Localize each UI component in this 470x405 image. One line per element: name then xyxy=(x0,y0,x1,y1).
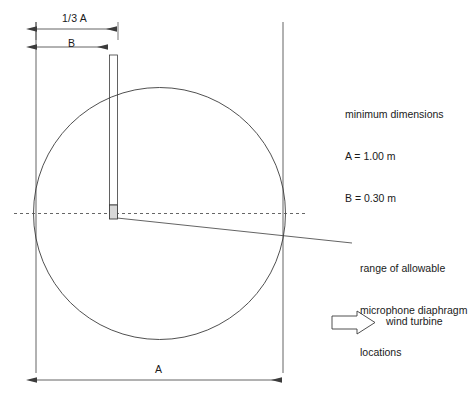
board-outline xyxy=(36,22,283,373)
wind-turbine-legend-label: wind turbine xyxy=(386,314,443,328)
dimension-label-b: B xyxy=(68,36,75,50)
dimension-label-a: A xyxy=(155,362,162,376)
diagram-root: 1/3 A B A minimum dimensions A = 1.00 m … xyxy=(0,0,470,405)
note-heading: minimum dimensions xyxy=(345,107,444,121)
minimum-dimensions-note: minimum dimensions A = 1.00 m B = 0.30 m xyxy=(345,79,444,233)
range-of-allowable-locations-note: range of allowable microphone diaphragm … xyxy=(360,233,467,387)
range-leader-line xyxy=(117,218,352,243)
note-value-a: A = 1.00 m xyxy=(345,149,444,163)
note-value-b: B = 0.30 m xyxy=(345,191,444,205)
range-note-line-3: locations xyxy=(360,345,467,359)
mast-rod xyxy=(110,55,118,205)
dimension-label-third-a: 1/3 A xyxy=(62,11,87,25)
range-note-line-1: range of allowable xyxy=(360,261,467,275)
microphone-diaphragm-box xyxy=(110,205,118,219)
